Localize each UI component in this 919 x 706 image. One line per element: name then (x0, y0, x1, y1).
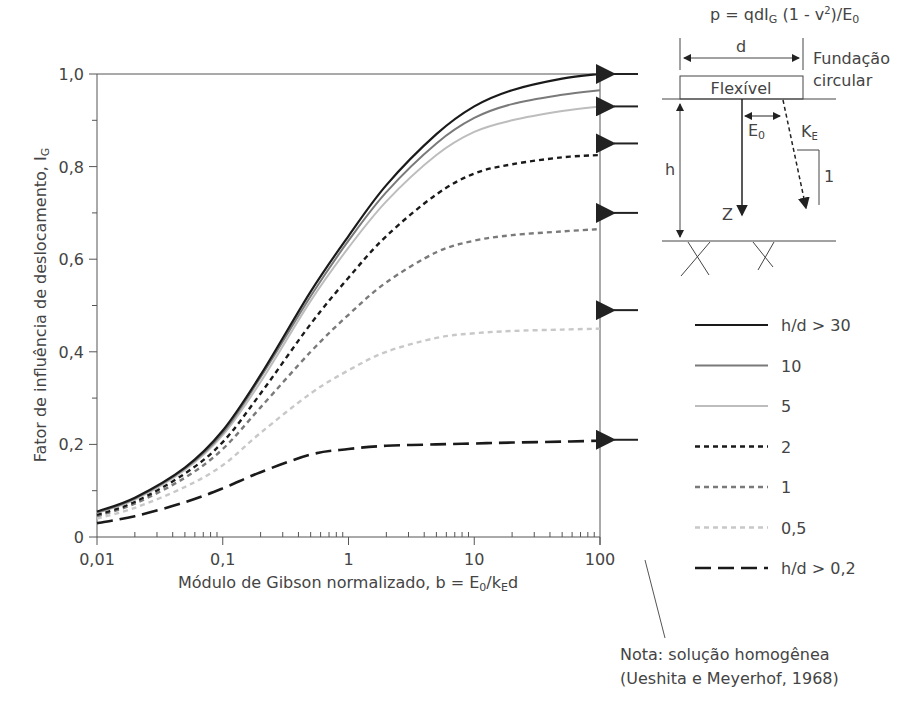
asymptote-arrows (614, 74, 638, 440)
x-axis-title: Módulo de Gibson normalizado, b = E0/kEd (178, 573, 518, 594)
note-line-1: Nota: solução homogênea (620, 645, 830, 664)
influence-factor-chart: 00,20,40,60,81,0 0,010,1110100 Fator de … (0, 0, 919, 706)
y-tick-label: 0,6 (59, 250, 84, 269)
series-line (97, 106, 600, 513)
e0-label: E0 (748, 121, 765, 142)
legend-label: h/d > 0,2 (781, 559, 856, 578)
legend-label: 2 (781, 438, 791, 457)
x-tick-label: 0,1 (210, 550, 235, 569)
legend-label: 0,5 (781, 519, 806, 538)
homogeneous-note: Nota: solução homogênea (Ueshita e Meyer… (620, 560, 839, 688)
series-line (97, 229, 600, 516)
y-axis-title: Fator de influência de deslocamento, IG (31, 148, 52, 463)
flexible-label: Flexível (711, 79, 772, 98)
slope-label: 1 (824, 167, 834, 186)
legend-label: h/d > 30 (781, 316, 851, 335)
legend-label: 10 (781, 357, 801, 376)
series-line (97, 74, 600, 512)
x-tick-label: 10 (464, 550, 484, 569)
y-tick-label: 1,0 (59, 65, 84, 84)
x-tick-label: 100 (585, 550, 616, 569)
plot-frame (97, 74, 600, 545)
x-axis-ticks (97, 532, 600, 545)
y-axis-tick-labels: 00,20,40,60,81,0 (59, 65, 84, 547)
series-line (97, 329, 600, 519)
legend-label: 1 (781, 478, 791, 497)
d-label: d (736, 37, 746, 56)
y-tick-label: 0,2 (59, 435, 84, 454)
legend-label: 5 (781, 397, 791, 416)
y-tick-label: 0,4 (59, 343, 84, 362)
z-label: Z (722, 205, 733, 224)
x-axis-tick-labels: 0,010,1110100 (79, 550, 615, 569)
y-axis-ticks (89, 74, 97, 537)
legend: h/d > 30105210,5h/d > 0,2 (695, 316, 856, 578)
series-curves (97, 74, 600, 523)
foundation-label-1: Fundação (813, 49, 890, 68)
ke-label: KE (801, 122, 818, 142)
formula: p = qdIG (1 - v2)/E0 (710, 5, 859, 26)
foundation-label-2: circular (813, 71, 873, 90)
x-tick-label: 1 (343, 550, 353, 569)
x-tick-label: 0,01 (79, 550, 115, 569)
y-tick-label: 0,8 (59, 158, 84, 177)
series-line (97, 155, 600, 515)
note-line-2: (Ueshita e Meyerhof, 1968) (620, 669, 839, 688)
h-label: h (665, 160, 675, 179)
y-tick-label: 0 (74, 528, 84, 547)
foundation-diagram: p = qdIG (1 - v2)/E0 d Fundação circular… (662, 5, 890, 276)
